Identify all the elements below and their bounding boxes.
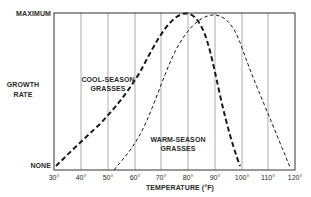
y-max-label: MAXIMUM (16, 10, 51, 17)
cool-season-label-line1: COOL-SEASON (81, 76, 134, 83)
x-tick-label: 80° (183, 174, 194, 181)
growth-rate-chart: MAXIMUM NONE GROWTH RATE COOL-SEASON GRA… (0, 0, 311, 197)
cool-season-label-line2: GRASSES (91, 85, 126, 92)
x-tick-label: 100° (235, 174, 250, 181)
x-tick-label: 40° (76, 174, 87, 181)
warm-season-curve (114, 15, 290, 170)
warm-season-label-line2: GRASSES (161, 145, 196, 152)
x-tick-label: 30° (49, 174, 60, 181)
x-tick-label: 70° (156, 174, 167, 181)
x-tick-label: 120° (288, 174, 303, 181)
y-axis-title-line1: GROWTH (7, 81, 39, 88)
x-axis-title: TEMPERATURE (°F) (146, 184, 214, 192)
y-axis-title-line2: RATE (14, 91, 33, 98)
y-none-label: NONE (30, 162, 51, 169)
x-tick-label: 60° (130, 174, 141, 181)
x-tick-label: 90° (210, 174, 221, 181)
cool-season-curve (56, 13, 240, 166)
x-tick-labels: 30° 40° 50° 60° 70° 80° 90° 100° 110° 12… (49, 174, 303, 181)
x-tick-label: 110° (261, 174, 275, 181)
warm-season-label-line1: WARM-SEASON (150, 136, 205, 143)
x-tick-label: 50° (103, 174, 114, 181)
